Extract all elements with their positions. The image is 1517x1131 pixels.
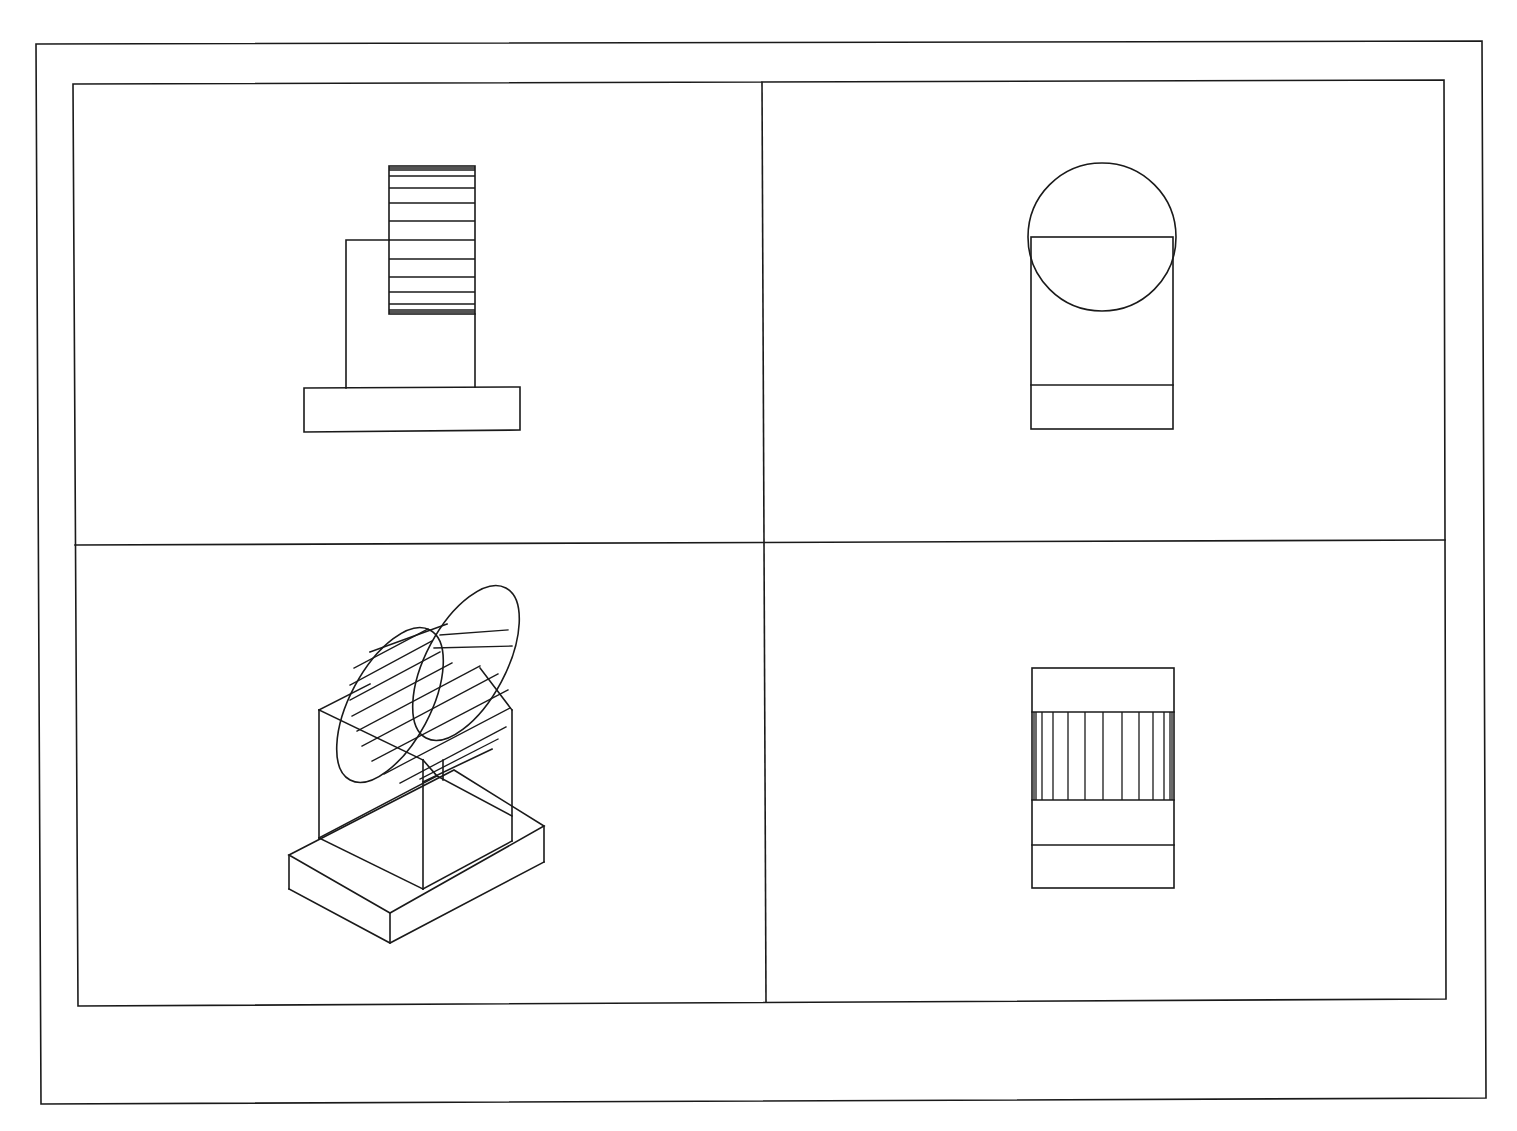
drawing-sheet (0, 0, 1517, 1131)
top-view (1032, 668, 1174, 888)
side-view (1028, 163, 1176, 429)
isometric-view (289, 569, 544, 943)
front-view (304, 166, 520, 432)
outer-frame (36, 41, 1486, 1104)
horizontal-divider (75, 540, 1445, 545)
